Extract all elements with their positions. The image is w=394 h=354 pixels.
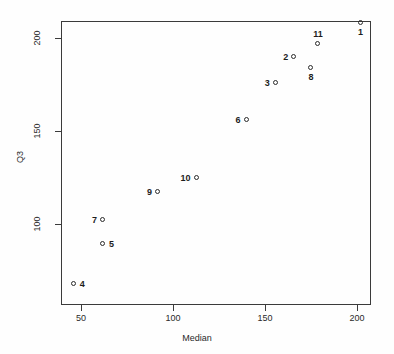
y-axis-tick-150 [55, 131, 61, 132]
x-axis-title: Median [0, 333, 394, 343]
data-point-label-11: 11 [313, 30, 323, 39]
data-point-label-6: 6 [235, 116, 240, 125]
data-point-6 [244, 117, 249, 122]
data-point-10 [194, 175, 199, 180]
data-point-label-1: 1 [358, 28, 363, 37]
data-point-label-10: 10 [181, 174, 191, 183]
x-axis-tick-label-100: 100 [153, 313, 193, 323]
data-point-3 [273, 80, 278, 85]
data-point-label-7: 7 [92, 216, 97, 225]
x-axis-tick-100 [173, 305, 174, 311]
y-axis-title: Q3 [15, 151, 25, 163]
scatter-plot-figure: 200 150 100 50 100 150 200 Q3 Median 123… [0, 0, 394, 354]
plot-frame [61, 21, 371, 305]
data-point-4 [71, 281, 76, 286]
y-axis-tick-label-200: 200 [0, 33, 44, 43]
data-point-label-8: 8 [308, 73, 313, 82]
data-point-label-2: 2 [283, 53, 288, 62]
x-axis-tick-150 [265, 305, 266, 311]
data-point-label-5: 5 [109, 240, 114, 249]
data-point-11 [315, 41, 320, 46]
data-point-label-4: 4 [80, 280, 85, 289]
x-axis-tick-label-150: 150 [245, 313, 285, 323]
data-point-label-9: 9 [147, 188, 152, 197]
x-axis-tick-label-50: 50 [61, 313, 101, 323]
y-axis-tick-label-100: 100 [0, 219, 44, 229]
x-axis-tick-50 [81, 305, 82, 311]
y-axis-tick-200 [55, 38, 61, 39]
data-point-8 [308, 65, 313, 70]
x-axis-tick-label-200: 200 [337, 313, 377, 323]
y-axis-tick-100 [55, 224, 61, 225]
x-axis-tick-200 [357, 305, 358, 311]
y-axis-tick-label-150: 150 [0, 126, 44, 136]
data-point-1 [358, 20, 363, 25]
data-point-label-3: 3 [265, 79, 270, 88]
